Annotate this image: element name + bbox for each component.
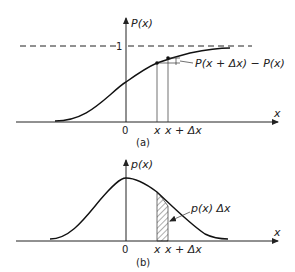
origin-label-b: 0 — [122, 244, 128, 255]
hatched-strip — [157, 192, 168, 241]
point-x-a — [155, 61, 159, 65]
origin-label-a: 0 — [122, 125, 128, 136]
x-dx-tick-a: x + Δx — [164, 124, 202, 137]
x-tick-b: x — [153, 243, 161, 256]
asymptote-label: 1 — [116, 41, 122, 52]
panel-a-cdf: P(x) 1 P(x + Δx) − P(x) x 0 x x + Δx (a) — [16, 17, 285, 148]
annotation-leader-a — [180, 61, 193, 63]
x-label-a: x — [273, 107, 281, 120]
y-label-a: P(x) — [131, 17, 153, 30]
caption-b: (b) — [136, 257, 150, 268]
panel-b-pdf: p(x) p(x) Δx x 0 x x + Δx (b) — [16, 158, 281, 268]
x-label-b: x — [273, 226, 281, 239]
point-x-dx-a — [166, 56, 170, 60]
x-tick-a: x — [153, 124, 161, 137]
caption-a: (a) — [136, 137, 150, 148]
y-label-b: p(x) — [130, 158, 153, 171]
diagram-canvas: P(x) 1 P(x + Δx) − P(x) x 0 x x + Δx (a)… — [0, 0, 295, 272]
x-dx-tick-b: x + Δx — [164, 243, 202, 256]
annotation-a: P(x + Δx) − P(x) — [195, 57, 285, 70]
annotation-b: p(x) Δx — [190, 202, 231, 215]
